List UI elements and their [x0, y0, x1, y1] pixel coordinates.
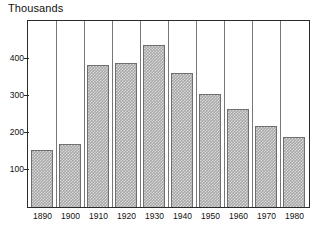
y-axis-tick-label: 300	[2, 91, 24, 99]
y-axis-tick-label: 400	[2, 54, 24, 62]
bar-1950	[199, 94, 221, 207]
plot-area: 100200300400	[27, 20, 310, 208]
y-axis-tick	[24, 95, 29, 96]
gridline-vertical	[140, 21, 141, 207]
bar-1890	[31, 150, 53, 207]
gridline-vertical	[56, 21, 57, 207]
y-axis-tick	[24, 169, 29, 170]
bar-1930	[143, 45, 165, 207]
bar-1980	[283, 137, 305, 207]
bar-1910	[87, 65, 109, 207]
plot-inner-surface: 100200300400	[28, 21, 309, 207]
y-axis-tick-label: 100	[2, 165, 24, 173]
gridline-vertical	[196, 21, 197, 207]
gridline-vertical	[224, 21, 225, 207]
bar-1960	[227, 109, 249, 207]
bar-1900	[59, 144, 81, 207]
y-axis-tick-label: 200	[2, 128, 24, 136]
gridline-vertical	[168, 21, 169, 207]
y-axis-tick	[24, 58, 29, 59]
gridline-vertical	[84, 21, 85, 207]
bar-1940	[171, 73, 193, 207]
bar-1970	[255, 126, 277, 207]
bar-1920	[115, 63, 137, 207]
gridline-vertical	[280, 21, 281, 207]
chart-title: Thousands	[8, 2, 63, 15]
x-axis-label-1980: 1980	[275, 211, 315, 221]
bar-chart: Thousands 100200300400 18901900191019201…	[0, 0, 324, 230]
y-axis-tick	[24, 132, 29, 133]
gridline-vertical	[112, 21, 113, 207]
gridline-vertical	[252, 21, 253, 207]
